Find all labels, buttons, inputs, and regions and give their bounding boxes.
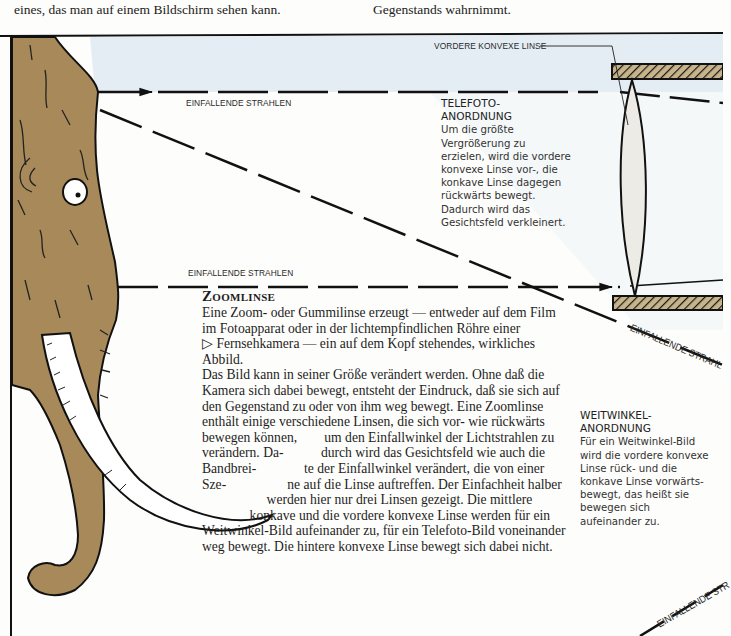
telefoto-title-line2: ANORDNUNG bbox=[441, 110, 591, 123]
zoomlinse-line: Sze- ne auf die Linse auftreffen. Der Ei… bbox=[202, 477, 582, 493]
zoomlinse-line: Das Bild kann in seiner Größe verändert … bbox=[202, 367, 582, 383]
lens-housing-top bbox=[612, 64, 723, 79]
telefoto-caption: TELEFOTO- ANORDNUNG Um die größte Vergrö… bbox=[441, 97, 591, 229]
zoomlinse-line: den Gegenstand zu oder von ihm weg beweg… bbox=[202, 399, 582, 415]
zoomlinse-line: verändern. Da- durch wird das Gesichtsfe… bbox=[202, 445, 582, 461]
weitwinkel-line: bewegt, das heißt sie bbox=[580, 488, 720, 501]
zoomlinse-line: Kamera sich dabei bewegt, entsteht der E… bbox=[202, 383, 582, 399]
telefoto-line: Gesichtsfeld verkleinert. bbox=[441, 216, 591, 229]
mammoth-head bbox=[12, 37, 118, 595]
mammoth-pupil bbox=[76, 193, 81, 198]
weitwinkel-title-line2: ANORDNUNG bbox=[580, 422, 720, 435]
zoomlinse-line: werden hier nur drei Linsen gezeigt. Die… bbox=[202, 492, 582, 508]
telefoto-title-line1: TELEFOTO- bbox=[441, 97, 591, 110]
zoomlinse-line: bewegen können, um den Einfallwinkel der… bbox=[202, 430, 582, 446]
zoomlinse-line: Weitwinkel-Bild aufeinander zu, für ein … bbox=[202, 523, 582, 539]
weitwinkel-line: wird die vordere konvexe bbox=[580, 449, 720, 462]
weitwinkel-line: bewegen sich bbox=[580, 501, 720, 514]
mammoth-eye bbox=[63, 179, 87, 205]
telefoto-line: konkave Linse dagegen bbox=[441, 176, 591, 189]
weitwinkel-line: Linse rück- und die bbox=[580, 462, 720, 475]
zoomlinse-line: im Fotoapparat oder in der lichtempfindl… bbox=[202, 321, 582, 337]
telefoto-line: Um die größte bbox=[441, 123, 591, 136]
telefoto-line: konvexe Linse vor-, die bbox=[441, 163, 591, 176]
zoomlinse-line: konkave und die vordere konvexe Linse we… bbox=[202, 508, 582, 524]
label-front-convex-lens: VORDERE KONVEXE LINSE bbox=[434, 40, 546, 51]
weitwinkel-caption: WEITWINKEL- ANORDNUNG Für ein Weitwinkel… bbox=[580, 409, 720, 528]
zoomlinse-article: Zoomlinse Eine Zoom- oder Gummilinse erz… bbox=[202, 287, 582, 555]
weitwinkel-title-line1: WEITWINKEL- bbox=[580, 409, 720, 422]
label-incoming-rays-middle: EINFALLENDE STRAHLEN bbox=[188, 267, 293, 278]
zoomlinse-line: enthält einige verschiedene Linsen, die … bbox=[202, 414, 582, 430]
zoomlinse-line: Abbild. bbox=[202, 352, 582, 368]
zoomlinse-line: Bandbrei- te der Einfallwinkel verändert… bbox=[202, 461, 582, 477]
weitwinkel-line: Für ein Weitwinkel-Bild bbox=[580, 435, 720, 448]
zoomlinse-heading: Zoomlinse bbox=[202, 287, 582, 305]
label-incoming-rays-top: EINFALLENDE STRAHLEN bbox=[186, 97, 291, 108]
telefoto-line: rückwärts bewegt. bbox=[441, 189, 591, 202]
telefoto-line: Vergrößerung zu bbox=[441, 137, 591, 150]
zoomlinse-line: weg bewegt. Die hintere konvexe Linse be… bbox=[202, 539, 582, 555]
zoomlinse-line: ▷ Fernsehkamera — ein auf dem Kopf stehe… bbox=[202, 336, 582, 352]
lens-housing-bottom bbox=[613, 296, 723, 310]
telefoto-line: erzielen, wird die vordere bbox=[441, 150, 591, 163]
weitwinkel-line: aufeinander zu. bbox=[580, 515, 720, 528]
telefoto-line: Dadurch wird das bbox=[441, 203, 591, 216]
zoomlinse-line: Eine Zoom- oder Gummilinse erzeugt — ent… bbox=[202, 305, 582, 321]
weitwinkel-line: konkave Linse vorwärts- bbox=[580, 475, 720, 488]
